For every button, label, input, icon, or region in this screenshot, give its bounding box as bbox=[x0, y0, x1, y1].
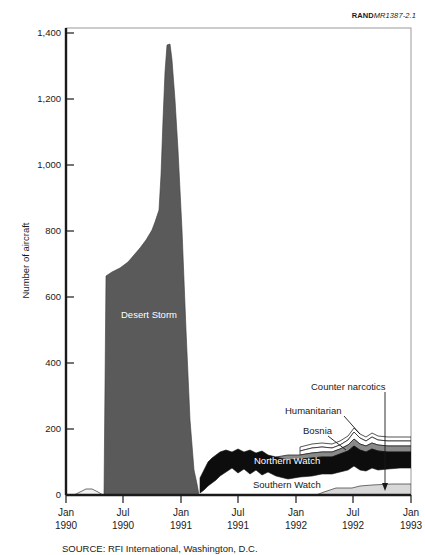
x-tick-year: 1993 bbox=[376, 519, 425, 532]
x-tick-marks bbox=[66, 495, 411, 503]
x-tick-label: Jan 1993 bbox=[376, 506, 425, 532]
annotation-bosnia: Bosnia bbox=[303, 425, 332, 436]
figure-container: RANDMR1387-2.1 Number of aircraft 1,400 … bbox=[0, 0, 425, 555]
annotation-humanitarian: Humanitarian bbox=[285, 405, 342, 416]
annotation-northern-watch: Northern Watch bbox=[254, 455, 320, 466]
source-note: SOURCE: RFI International, Washington, D… bbox=[62, 543, 258, 554]
x-tick-month: Jan bbox=[376, 506, 425, 519]
plot-area bbox=[0, 0, 425, 555]
annotation-desert-storm: Desert Storm bbox=[121, 309, 173, 320]
annotation-counter-narcotics: Counter narcotics bbox=[311, 381, 385, 392]
annotation-desert-storm-line2: Storm bbox=[152, 309, 177, 320]
annotation-southern-watch: Southern Watch bbox=[253, 479, 321, 490]
annotation-desert-storm-line1: Desert bbox=[121, 309, 149, 320]
